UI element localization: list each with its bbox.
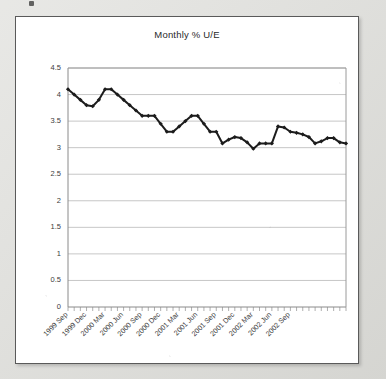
- plot-frame: [68, 68, 346, 307]
- plot-area: 00.511.522.533.544.5 1999 Sep1999 Dec200…: [16, 17, 360, 365]
- x-axis-tick-labels: 1999 Sep1999 Dec2000 Mar2000 Jun2000 Sep…: [41, 310, 292, 339]
- y-tick-label: 3.5: [51, 116, 61, 125]
- chart-card: Monthly % U/E 00.511.522.533.544.5 1999 …: [15, 16, 359, 364]
- y-tick-label: 2.5: [51, 169, 61, 178]
- gridlines: [68, 68, 346, 280]
- y-tick-label: 4.5: [51, 63, 61, 72]
- data-point-marker: [344, 141, 348, 145]
- page-artifact-speck: [29, 1, 34, 6]
- y-tick-label: 0.5: [51, 275, 61, 284]
- y-tick-label: 3: [57, 143, 61, 152]
- scanned-page: Monthly % U/E 00.511.522.533.544.5 1999 …: [0, 0, 386, 379]
- y-tick-label: 1.5: [51, 222, 61, 231]
- data-point-marker: [264, 141, 268, 145]
- line-chart-svg: 00.511.522.533.544.5 1999 Sep1999 Dec200…: [16, 17, 360, 365]
- y-tick-label: 2: [57, 196, 61, 205]
- y-tick-label: 4: [57, 90, 61, 99]
- data-point-marker: [294, 131, 298, 135]
- x-axis-ticks: [68, 307, 346, 311]
- y-tick-label: 0: [57, 302, 61, 311]
- data-point-marker: [146, 114, 150, 118]
- y-axis-tick-labels: 00.511.522.533.544.5: [51, 63, 61, 311]
- data-series-monthly-ue: [66, 87, 348, 151]
- y-tick-label: 1: [57, 249, 61, 258]
